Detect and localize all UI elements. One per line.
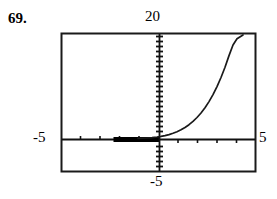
x-min-label: -5 — [33, 130, 46, 145]
calculator-graph-window: 20 -5 5 -5 — [0, 0, 277, 199]
graph-figure: 69. — [0, 0, 277, 199]
y-axis-ticks — [156, 37, 163, 167]
y-max-label: 20 — [145, 9, 160, 24]
graph-canvas — [0, 0, 277, 199]
x-max-label: 5 — [259, 130, 267, 145]
y-min-label: -5 — [150, 174, 163, 189]
